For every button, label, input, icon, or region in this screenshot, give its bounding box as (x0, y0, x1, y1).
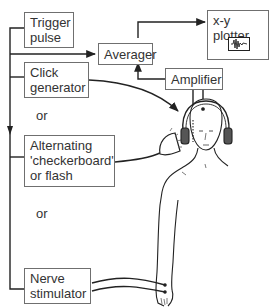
click-generator-box: Click generator (24, 62, 89, 98)
nerve-label-1: Nerve (30, 271, 85, 286)
xy-plotter-box: x-y plotter (207, 10, 269, 60)
amplifier-box: Amplifier (165, 68, 223, 90)
waveform-icon (228, 37, 250, 51)
or-label-2: or (36, 206, 48, 221)
click-label-2: generator (30, 80, 83, 95)
averager-label: Averager (104, 47, 157, 62)
alternating-label-3: or flash (30, 168, 109, 183)
amplifier-label: Amplifier (171, 72, 222, 87)
person-with-headphones-illustration (156, 99, 232, 306)
trigger-label-1: Trigger (30, 15, 68, 30)
bus-down-arrow (7, 126, 13, 135)
averager-to-plotter-arrow (138, 22, 205, 38)
trigger-pulse-box: Trigger pulse (24, 12, 74, 48)
averager-box: Averager (98, 43, 153, 65)
nerve-stimulator-box: Nerve stimulator (24, 268, 91, 304)
or-label-1: or (36, 108, 48, 123)
trigger-label-2: pulse (30, 30, 68, 45)
alternating-label-1: Alternating (30, 138, 109, 153)
click-label-1: Click (30, 65, 83, 80)
alternating-checkerboard-box: Alternating 'checkerboard' or flash (24, 135, 115, 187)
trigger-bus-line (10, 28, 24, 289)
alternating-label-2: 'checkerboard' (30, 153, 109, 168)
nerve-label-2: stimulator (30, 286, 85, 301)
amplifier-to-averager-arrow (138, 63, 165, 79)
flash-lamp-icon (160, 128, 182, 155)
